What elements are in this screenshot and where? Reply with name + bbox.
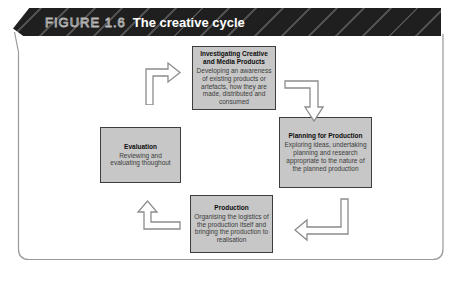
figure-header: FIGURE 1.6 The creative cycle (13, 8, 441, 36)
figure-number-label: FIGURE 1.6 (45, 15, 126, 30)
node-evaluation-body: Reviewing and evaluating thoughout (104, 152, 177, 168)
node-evaluation-title: Evaluation (104, 143, 177, 151)
arrow-down-left-icon (293, 196, 351, 242)
node-planning-body: Exploring ideas, undertaking planning an… (283, 141, 368, 172)
arrow-up-right-icon (142, 59, 182, 105)
figure-panel: FIGURE 1.6 The creative cycle Investigat… (0, 0, 455, 282)
node-production: Production Organising the logistics of t… (190, 195, 273, 253)
node-investigating-body: Developing an awareness of existing prod… (196, 67, 272, 106)
node-production-body: Organising the logistics of the producti… (194, 213, 269, 244)
node-evaluation: Evaluation Reviewing and evaluating thou… (100, 127, 181, 183)
arrow-right-down-icon (284, 79, 324, 123)
node-planning: Planning for Production Exploring ideas,… (279, 117, 372, 188)
figure-title: The creative cycle (133, 15, 245, 30)
arrow-left-up-icon (136, 200, 181, 232)
node-investigating-title: Investigating Creative and Media Product… (196, 50, 272, 66)
node-planning-title: Planning for Production (283, 132, 368, 140)
node-investigating: Investigating Creative and Media Product… (192, 46, 276, 110)
node-production-title: Production (194, 204, 269, 212)
